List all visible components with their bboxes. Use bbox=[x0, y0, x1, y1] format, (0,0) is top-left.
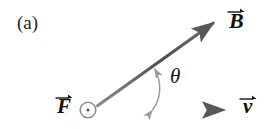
vector-B-arrow bbox=[97, 23, 215, 107]
vector-B-glyph: B bbox=[229, 10, 244, 32]
vector-v-glyph: v bbox=[243, 96, 252, 117]
vector-v-label: v bbox=[243, 96, 252, 117]
vector-F-glyph: F bbox=[57, 96, 71, 117]
panel-label: (a) bbox=[17, 13, 38, 32]
angle-theta-label: θ bbox=[170, 66, 180, 87]
field-out-of-page-icon bbox=[80, 102, 96, 118]
vector-diagram-figure: (a) B v bbox=[0, 0, 278, 129]
vector-F-label: F bbox=[57, 96, 71, 117]
vector-B-label: B bbox=[229, 10, 244, 32]
angle-theta-arc bbox=[153, 69, 160, 111]
